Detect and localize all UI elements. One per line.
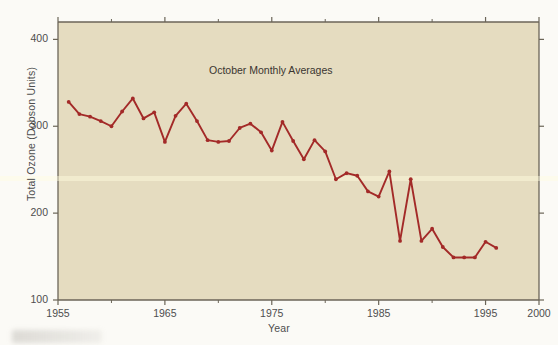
data-point [323,150,327,154]
data-point [313,138,317,142]
data-point [249,122,253,126]
data-point [291,139,295,143]
data-point [142,117,146,121]
chart-title: October Monthly Averages [209,64,333,76]
x-tick-label: 1995 [466,307,506,319]
data-point [259,130,263,134]
data-point [281,120,285,124]
y-tick-label: 100 [14,293,48,305]
scan-line [0,176,558,181]
data-point [152,110,156,114]
x-tick-label: 1965 [145,307,185,319]
data-point [270,149,274,153]
data-point [366,190,370,194]
data-point [462,256,466,260]
data-point [302,157,306,161]
data-point [484,240,488,244]
data-point [334,177,338,181]
data-point [420,239,424,243]
data-point [238,126,242,130]
data-point [131,97,135,101]
data-point [430,227,434,231]
data-point [355,174,359,178]
data-point [88,115,92,119]
page-caption-artifact [12,330,102,343]
x-tick-label: 1955 [38,307,78,319]
y-tick-label: 400 [14,32,48,44]
y-axis-label: Total Ozone (Dobson Units) [25,54,37,214]
data-point [67,100,71,104]
chart-canvas [0,0,558,345]
data-point [227,139,231,143]
ozone-chart-figure: October Monthly Averages Total Ozone (Do… [0,0,558,345]
data-point [174,114,178,118]
data-point [387,170,391,174]
data-point [345,171,349,175]
data-point [452,256,456,260]
data-point [110,124,114,128]
data-point [494,246,498,250]
data-point [195,119,199,123]
x-tick-label: 1985 [359,307,399,319]
data-point [216,140,220,144]
scan-artifact-band [0,176,558,181]
data-point [441,245,445,249]
data-point [398,239,402,243]
data-point [163,140,167,144]
y-tick-label: 200 [14,206,48,218]
data-point [409,177,413,181]
x-tick-label: 2000 [519,307,558,319]
data-point [77,112,81,116]
y-tick-label: 300 [14,119,48,131]
data-point [206,138,210,142]
data-point [473,256,477,260]
data-point [184,102,188,106]
x-tick-label: 1975 [252,307,292,319]
data-point [99,119,103,123]
data-point [377,195,381,199]
data-point [120,110,124,114]
